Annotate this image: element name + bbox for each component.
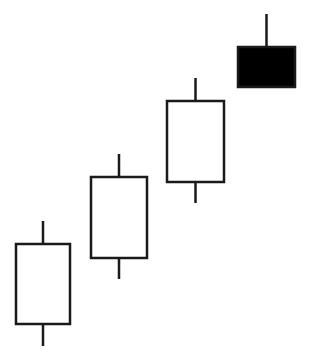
- candle-1: [16, 221, 70, 346]
- candle-4: [238, 14, 295, 87]
- bullish-body: [167, 101, 224, 182]
- candle-3: [167, 78, 224, 203]
- bullish-body: [16, 244, 70, 324]
- candlestick-chart: [0, 0, 311, 361]
- bearish-body: [238, 47, 295, 87]
- candle-2: [91, 154, 147, 279]
- bullish-body: [91, 177, 147, 258]
